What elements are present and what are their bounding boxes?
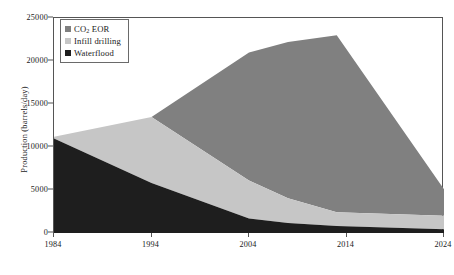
legend-label-co2-eor: CO2 EOR [74, 25, 109, 34]
legend-swatch-co2-eor [65, 26, 71, 32]
x-tick-label: 1994 [142, 240, 159, 249]
chart-legend: CO2 EOR Infill drilling Waterflood [60, 19, 129, 63]
x-tick-label: 2004 [239, 240, 256, 249]
legend-label-infill-drilling: Infill drilling [74, 37, 121, 46]
legend-item-waterflood: Waterflood [65, 47, 121, 59]
legend-label-waterflood: Waterflood [74, 49, 114, 58]
x-tick-label: 2024 [434, 240, 451, 249]
legend-swatch-waterflood [65, 50, 71, 56]
y-tick-label: 0 [0, 228, 48, 237]
stacked-area-chart: Production (barrels/day) 050001000015000… [0, 0, 454, 275]
legend-item-co2-eor: CO2 EOR [65, 23, 121, 35]
x-tick-label: 1984 [44, 240, 61, 249]
legend-item-infill-drilling: Infill drilling [65, 35, 121, 47]
y-tick-label: 25000 [0, 13, 48, 22]
y-axis-title: Production (barrels/day) [20, 55, 29, 205]
x-tick-label: 2014 [337, 240, 354, 249]
legend-swatch-infill-drilling [65, 38, 71, 44]
